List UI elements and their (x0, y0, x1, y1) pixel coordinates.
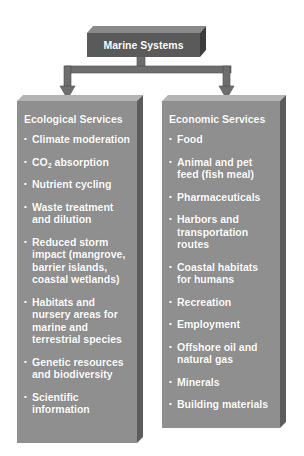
list-item: Minerals (169, 376, 276, 389)
list-item: Harbors andtransportationroutes (169, 213, 276, 251)
list-item: Recreation (169, 296, 276, 309)
economic-services-list: Food Animal and petfeed (fish meal) Phar… (169, 133, 276, 411)
ecological-services-box: Ecological Services Climate moderation C… (17, 101, 137, 443)
root-node-label: Marine Systems (104, 39, 184, 51)
list-item: Employment (169, 318, 276, 331)
list-item: Habitats andnursery areas formarine andt… (24, 296, 133, 346)
list-item: Waste treatmentand dilution (24, 201, 133, 226)
economic-services-box: Economic Services Food Animal and petfee… (162, 101, 280, 428)
list-item: Reduced stormimpact (mangrove,barrier is… (24, 236, 133, 286)
list-item: Offshore oil andnatural gas (169, 341, 276, 366)
list-item: Pharmaceuticals (169, 191, 276, 204)
list-item: Genetic resourcesand biodiversity (24, 356, 133, 381)
root-node: Marine Systems (87, 33, 200, 57)
list-item: Animal and petfeed (fish meal) (169, 156, 276, 181)
list-item: Scientificinformation (24, 391, 133, 416)
list-item: CO2 absorption (24, 156, 133, 169)
list-item: Building materials (169, 398, 276, 411)
column-heading: Economic Services (169, 113, 276, 125)
list-item: Food (169, 133, 276, 146)
ecological-services-list: Climate moderation CO2 absorption Nutrie… (24, 133, 133, 416)
list-item: Nutrient cycling (24, 178, 133, 191)
column-heading: Ecological Services (24, 113, 133, 125)
list-item: Coastal habitatsfor humans (169, 261, 276, 286)
list-item: Climate moderation (24, 133, 133, 146)
